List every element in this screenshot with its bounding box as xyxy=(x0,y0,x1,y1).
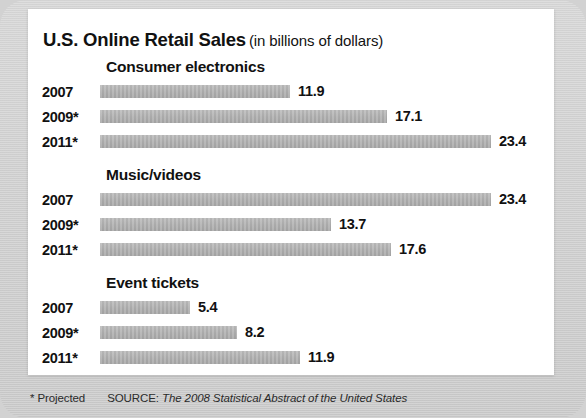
bar-track: 8.2 xyxy=(100,320,554,345)
bar-value-label: 13.7 xyxy=(339,214,366,235)
bar-group: Music/videos200723.42009*13.72011*17.6 xyxy=(28,165,554,262)
bar xyxy=(100,135,491,148)
bar-value-label: 17.6 xyxy=(399,239,426,260)
bar xyxy=(100,326,237,339)
bar-category-label: 2009* xyxy=(28,325,100,341)
bar-value-label: 5.4 xyxy=(198,297,217,318)
bar-row: 2009*8.2 xyxy=(28,320,554,345)
bar-row: 2011*11.9 xyxy=(28,345,554,370)
bar xyxy=(100,301,190,314)
bar xyxy=(100,193,491,206)
source-attribution: SOURCE: The 2008 Statistical Abstract of… xyxy=(107,392,407,404)
bar xyxy=(100,218,331,231)
title-subtitle: (in billions of dollars) xyxy=(249,32,383,49)
bar-row: 2011*23.4 xyxy=(28,129,554,154)
page-title: U.S. Online Retail Sales(in billions of … xyxy=(43,29,383,51)
bar-track: 23.4 xyxy=(100,129,554,154)
chart-card: U.S. Online Retail Sales(in billions of … xyxy=(28,9,554,375)
bar xyxy=(100,243,391,256)
bar-row: 200711.9 xyxy=(28,79,554,104)
title-main: U.S. Online Retail Sales xyxy=(43,29,246,50)
bar-row: 2011*17.6 xyxy=(28,237,554,262)
bar-row: 20075.4 xyxy=(28,295,554,320)
bar-group: Event tickets20075.42009*8.22011*11.9 xyxy=(28,273,554,370)
bar xyxy=(100,85,290,98)
bar-track: 11.9 xyxy=(100,345,554,370)
source-label: SOURCE: xyxy=(107,392,159,404)
bar-value-label: 11.9 xyxy=(298,81,324,102)
bar-track: 17.6 xyxy=(100,237,554,262)
bar-category-label: 2011* xyxy=(28,134,100,150)
bar-group-heading: Consumer electronics xyxy=(106,57,554,77)
footer: * Projected SOURCE: The 2008 Statistical… xyxy=(0,386,586,410)
footnote-projected: * Projected xyxy=(30,392,85,404)
bar-value-label: 17.1 xyxy=(395,106,422,127)
bar-category-label: 2009* xyxy=(28,217,100,233)
bar-groups: Consumer electronics200711.92009*17.1201… xyxy=(28,57,554,381)
bar-row: 2009*13.7 xyxy=(28,212,554,237)
bar-track: 17.1 xyxy=(100,104,554,129)
bar xyxy=(100,110,387,123)
bar-track: 23.4 xyxy=(100,187,554,212)
infographic-chart: U.S. Online Retail Sales(in billions of … xyxy=(0,0,586,418)
bar xyxy=(100,351,300,364)
source-title: The 2008 Statistical Abstract of the Uni… xyxy=(162,392,407,404)
bar-group-heading: Event tickets xyxy=(106,273,554,293)
bar-track: 13.7 xyxy=(100,212,554,237)
bar-row: 200723.4 xyxy=(28,187,554,212)
bar-category-label: 2011* xyxy=(28,350,100,366)
bar-group: Consumer electronics200711.92009*17.1201… xyxy=(28,57,554,154)
bar-category-label: 2007 xyxy=(28,300,100,316)
bar-category-label: 2007 xyxy=(28,192,100,208)
bar-group-heading: Music/videos xyxy=(106,165,554,185)
bar-value-label: 11.9 xyxy=(308,347,334,368)
bar-category-label: 2007 xyxy=(28,84,100,100)
bar-track: 11.9 xyxy=(100,79,554,104)
bar-category-label: 2009* xyxy=(28,109,100,125)
bar-category-label: 2011* xyxy=(28,242,100,258)
bar-value-label: 23.4 xyxy=(499,131,526,152)
bar-value-label: 8.2 xyxy=(245,322,264,343)
bar-row: 2009*17.1 xyxy=(28,104,554,129)
bar-value-label: 23.4 xyxy=(499,189,526,210)
bar-track: 5.4 xyxy=(100,295,554,320)
